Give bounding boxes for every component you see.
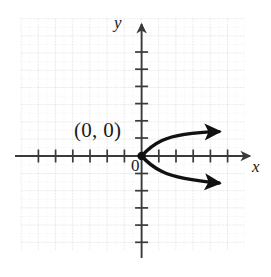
- origin-label: 0: [131, 157, 140, 174]
- coordinate-plot: [0, 0, 271, 277]
- parabola-figure: y x (0, 0) 0: [0, 0, 271, 277]
- grid-lines: [21, 18, 245, 250]
- y-axis-label: y: [114, 14, 122, 31]
- vertex-coordinate-label: (0, 0): [74, 120, 121, 141]
- x-axis-label: x: [252, 158, 260, 175]
